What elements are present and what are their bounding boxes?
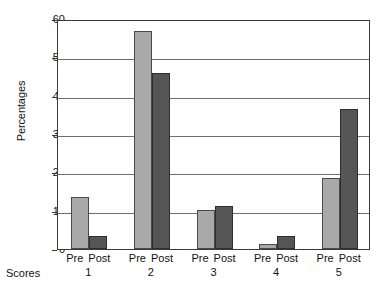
x-tick-label-post: Post <box>276 252 298 264</box>
bar-post-score-2 <box>152 73 170 249</box>
x-tick-label-post: Post <box>214 252 236 264</box>
x-tick-label-post: Post <box>339 252 361 264</box>
bar-pre-score-5 <box>322 178 340 249</box>
bar-pre-score-2 <box>134 31 152 250</box>
x-axis-title: Scores <box>6 266 40 280</box>
bar-pre-score-3 <box>197 210 215 249</box>
plot-area <box>57 20 370 250</box>
bar-post-score-4 <box>277 236 295 249</box>
x-tick-label-pre: Pre <box>254 252 271 264</box>
bar-post-score-5 <box>340 109 358 249</box>
x-tick-label-pre: Pre <box>317 252 334 264</box>
x-tick-label-post: Post <box>151 252 173 264</box>
y-tick-mark <box>52 250 57 251</box>
bar-chart: Percentages 0102030405060 Scores PrePost… <box>0 0 387 289</box>
x-group-label: PrePost5 <box>299 252 379 279</box>
bar-post-score-1 <box>89 236 107 249</box>
y-axis-title: Percentages <box>15 66 27 156</box>
x-tick-label-pre: Pre <box>191 252 208 264</box>
bars-layer <box>58 21 369 249</box>
x-tick-label-pre: Pre <box>129 252 146 264</box>
bar-pre-score-1 <box>71 197 89 249</box>
x-tick-label-post: Post <box>88 252 110 264</box>
x-axis-labels: Scores PrePost1PrePost2PrePost3PrePost4P… <box>0 252 387 289</box>
x-group-number: 5 <box>299 265 379 279</box>
x-tick-label-pre: Pre <box>66 252 83 264</box>
bar-post-score-3 <box>215 206 233 249</box>
bar-pre-score-4 <box>259 244 277 249</box>
